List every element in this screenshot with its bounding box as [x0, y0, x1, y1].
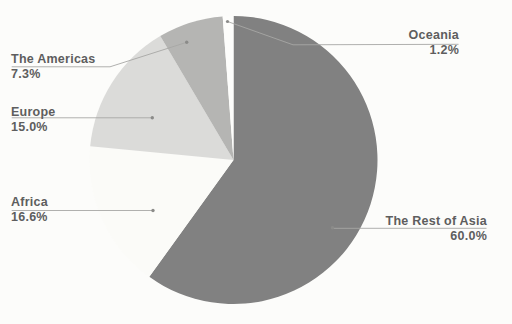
callout-label: The Rest of Asia	[386, 214, 487, 229]
callout-label: The Americas	[11, 52, 96, 67]
callout-value: 1.2%	[409, 43, 459, 58]
callout-value: 15.0%	[11, 120, 56, 135]
callout-the-americas: The Americas 7.3%	[11, 52, 96, 82]
callout-africa: Africa 16.6%	[11, 195, 48, 225]
callout-value: 60.0%	[386, 229, 487, 244]
callout-label: Africa	[11, 195, 48, 210]
callout-label: Europe	[11, 105, 56, 120]
callout-value: 7.3%	[11, 67, 96, 82]
callout-europe: Europe 15.0%	[11, 105, 56, 135]
leader-dot-the-rest-of-asia	[331, 226, 335, 230]
leader-dot-the-americas	[185, 41, 188, 44]
leader-dot-africa	[151, 209, 154, 212]
callout-value: 16.6%	[11, 210, 48, 225]
leader-dot-oceania	[226, 20, 229, 23]
callout-oceania: Oceania 1.2%	[409, 28, 459, 58]
callout-the-rest-of-asia: The Rest of Asia 60.0%	[386, 214, 487, 244]
callout-label: Oceania	[409, 28, 459, 43]
leader-dot-europe	[151, 116, 154, 119]
pie-chart: Oceania 1.2% The Americas 7.3% Europe 15…	[0, 0, 512, 324]
